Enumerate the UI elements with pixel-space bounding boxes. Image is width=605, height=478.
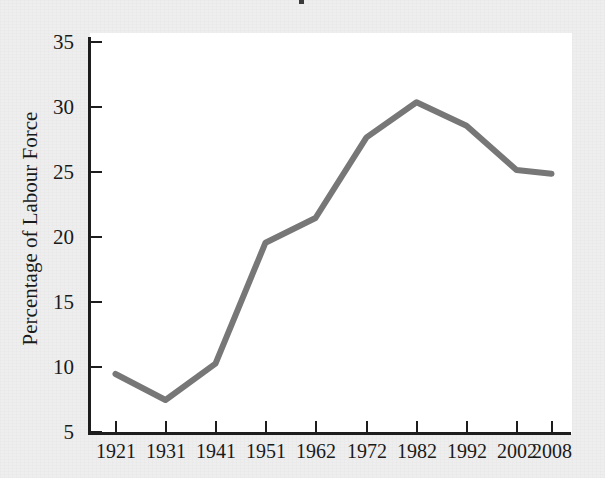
- y-axis-tick: [91, 236, 102, 238]
- x-axis-tick: [215, 421, 217, 432]
- y-axis-tick: [91, 41, 102, 43]
- y-axis-tick: [91, 366, 102, 368]
- x-axis-tick: [516, 421, 518, 432]
- y-axis-tick: [91, 106, 102, 108]
- y-axis-tick: [91, 301, 102, 303]
- y-axis-title: Percentage of Labour Force: [20, 79, 41, 379]
- y-axis-tick-label: 10: [38, 357, 74, 378]
- x-axis-tick: [416, 421, 418, 432]
- line-chart-figure: , 5 10 15 20 25 30 35 1921 1931 1941 195…: [0, 0, 605, 478]
- y-axis-tick-label: 20: [38, 227, 74, 248]
- x-axis-tick: [315, 421, 317, 432]
- y-axis-tick-label: 30: [38, 97, 74, 118]
- plot-area-background: [90, 33, 572, 434]
- y-axis-tick-label: 35: [38, 32, 74, 53]
- y-axis-tick-label: 15: [38, 292, 74, 313]
- y-axis-tick: [91, 431, 102, 433]
- x-axis-tick: [265, 421, 267, 432]
- x-axis-tick: [551, 421, 553, 432]
- x-axis-tick: [115, 421, 117, 432]
- y-axis-tick-label: 5: [38, 422, 74, 443]
- x-axis-tick: [366, 421, 368, 432]
- x-axis-tick: [165, 421, 167, 432]
- cropped-title-remnant: ,: [299, 0, 304, 4]
- x-axis-tick: [466, 421, 468, 432]
- y-axis-tick-label: 25: [38, 162, 74, 183]
- x-axis-tick-label: 2008: [522, 441, 582, 461]
- x-axis-line: [88, 432, 571, 435]
- y-axis-tick: [91, 171, 102, 173]
